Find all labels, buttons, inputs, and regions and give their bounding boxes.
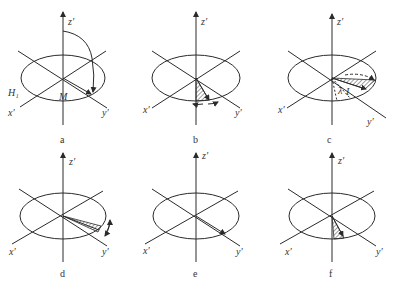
caption-c: c <box>327 134 332 145</box>
y-label: y′ <box>375 246 383 257</box>
x-label: x′ <box>284 246 292 257</box>
spread-arrow-left <box>193 104 203 105</box>
panel-d: z′ x′ y′ d <box>8 153 110 279</box>
y-label: y′ <box>101 107 109 118</box>
y-label: y′ <box>366 116 374 127</box>
z-label: z′ <box>200 16 208 27</box>
z-label: z′ <box>67 16 75 27</box>
caption-a: a <box>60 134 65 145</box>
x-label: x′ <box>8 246 16 257</box>
y-label: y′ <box>234 107 242 118</box>
caption-f: f <box>329 268 333 279</box>
x-label: x′ <box>142 245 150 256</box>
y-label: y′ <box>101 246 109 257</box>
lambda-label: λ <box>337 85 343 96</box>
z-label: z′ <box>201 150 209 161</box>
diagram-canvas: z′ x′ y′ H₁ M a z′ x′ y′ b λ I z′ x′ y′ <box>0 0 399 289</box>
panel-f: z′ x′ y′ f <box>280 153 383 279</box>
x-label: x′ <box>7 107 15 118</box>
z-label: z′ <box>337 155 345 166</box>
x-label: x′ <box>277 104 285 115</box>
x-axis <box>12 191 103 244</box>
panel-b: z′ x′ y′ b <box>142 12 242 145</box>
z-label: z′ <box>68 156 76 167</box>
panel-e: z′ x′ y′ e <box>142 150 243 279</box>
magnetization-vector <box>63 216 99 230</box>
magnetization-vector <box>196 216 225 234</box>
m-label: M <box>58 91 68 102</box>
h1-label: H₁ <box>7 87 19 98</box>
panel-a: z′ x′ y′ H₁ M a <box>7 12 109 145</box>
y-axis <box>288 51 386 118</box>
spread-arrow-right <box>208 102 218 104</box>
caption-e: e <box>193 268 198 279</box>
z-label: z′ <box>336 16 344 27</box>
caption-d: d <box>60 268 65 279</box>
panel-c: λ I z′ x′ y′ c <box>277 14 386 145</box>
y-label: y′ <box>235 246 243 257</box>
caption-b: b <box>193 134 198 145</box>
x-label: x′ <box>142 104 150 115</box>
angle-mark-label: I <box>345 86 350 97</box>
